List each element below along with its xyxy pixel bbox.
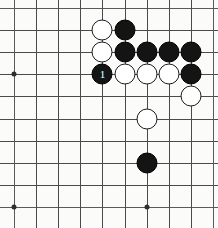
grid-line-vertical-3 [58, 0, 59, 228]
white-stone-c4-r2 [92, 20, 113, 41]
star-point-left [12, 72, 17, 77]
stone-move-number: 1 [100, 68, 106, 80]
black-stone-c5-r3 [114, 42, 135, 63]
black-stone-c7-r3 [158, 42, 179, 63]
grid-line-vertical-10 [213, 0, 214, 228]
black-stone-c8-r3 [180, 42, 201, 63]
white-stone-c7-r4 [158, 64, 179, 85]
white-stone-c5-r4 [114, 64, 135, 85]
go-board-diagram: 1 [0, 0, 218, 228]
white-stone-c6-r4 [136, 64, 157, 85]
grid-line-horizontal-10 [0, 207, 218, 208]
black-stone-c5-r2 [114, 20, 135, 41]
grid-line-vertical-2 [36, 0, 37, 228]
grid-line-vertical-4 [80, 0, 81, 228]
grid-line-horizontal-6 [0, 119, 218, 120]
black-stone-c6-r3 [136, 42, 157, 63]
grid-line-horizontal-9 [0, 185, 218, 186]
grid-line-horizontal-1 [0, 8, 218, 9]
grid-line-horizontal-8 [0, 163, 218, 164]
grid-line-horizontal-7 [0, 141, 218, 142]
black-stone-move-1: 1 [92, 64, 113, 85]
black-stone-c6-r8 [136, 152, 157, 173]
star-point-bottom-center [144, 204, 149, 209]
grid-line-vertical-8 [169, 0, 170, 228]
grid-line-vertical-1 [14, 0, 15, 228]
black-stone-c8-r4 [180, 64, 201, 85]
star-point-bottom-left [12, 204, 17, 209]
white-stone-c8-r5 [180, 86, 201, 107]
white-stone-c6-r6 [136, 108, 157, 129]
white-stone-c4-r3 [92, 42, 113, 63]
grid-line-vertical-9 [191, 0, 192, 228]
